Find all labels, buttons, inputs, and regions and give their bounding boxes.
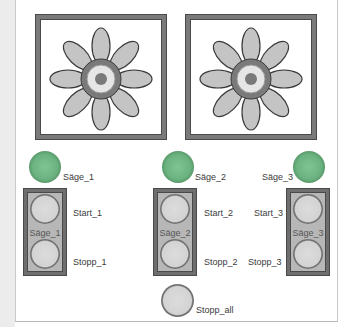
saw-2-lamp-label: Säge_2 [195,172,226,182]
saw-3-start-label: Start_3 [254,208,283,218]
saw-1-start-label: Start_1 [73,208,102,218]
saw-2-stop-label: Stopp_2 [204,257,238,267]
saw-2-start-button[interactable] [160,194,190,224]
saw-3-status-lamp [293,151,325,183]
saw-2-stop-button[interactable] [160,239,190,269]
saw-2-start-label: Start_2 [204,208,233,218]
stop-all-button[interactable] [161,284,194,317]
saw-1-start-button[interactable] [30,194,60,224]
stop-all-label: Stopp_all [196,305,234,315]
fan-icon [190,19,312,135]
saw-3-group-label: Säge_3 [290,228,326,238]
saw-2-group-label: Säge_2 [157,228,193,238]
saw-1-stop-label: Stopp_1 [73,257,107,267]
fan-display-2 [186,15,316,139]
saw-1-status-lamp [29,151,61,183]
saw-3-control-group: Säge_3 [287,189,329,275]
left-strip [0,0,15,327]
saw-3-lamp-label: Säge_3 [262,172,293,182]
saw-3-stop-label: Stopp_3 [248,257,282,267]
fan-display-1 [36,15,166,139]
saw-1-lamp-label: Säge_1 [63,172,94,182]
saw-1-stop-button[interactable] [30,239,60,269]
saw-1-control-group: Säge_1 [24,189,66,275]
fan-icon [40,19,162,135]
saw-1-group-label: Säge_1 [27,228,63,238]
saw-2-status-lamp [162,151,194,183]
saw-3-stop-button[interactable] [293,239,323,269]
saw-2-control-group: Säge_2 [154,189,196,275]
saw-3-start-button[interactable] [293,194,323,224]
